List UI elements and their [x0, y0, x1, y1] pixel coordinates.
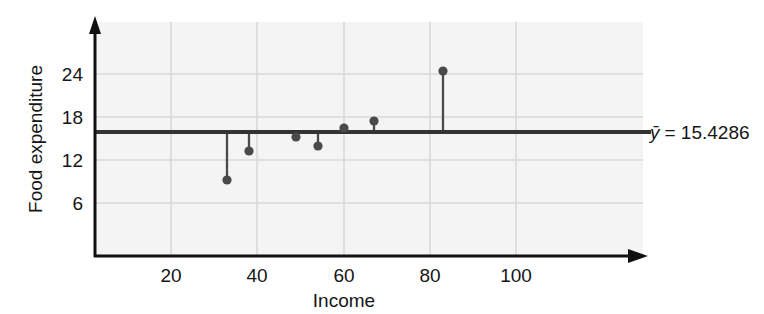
data-point-6	[369, 116, 378, 125]
data-point-5	[339, 123, 348, 132]
mean-value-text: = 15.4286	[665, 122, 750, 143]
svg-text:ȳ= 15.4286: ȳ= 15.4286	[648, 122, 750, 143]
scatter-plot-canvas: 24 18 12 6 20 40 60 80 100 Food expendit…	[0, 0, 764, 314]
y-tick-label-18: 18	[62, 107, 83, 128]
y-axis-title: Food expenditure	[25, 65, 46, 213]
x-tick-label-80: 80	[419, 265, 440, 286]
y-tick-label-6: 6	[72, 193, 83, 214]
x-tick-label-20: 20	[160, 265, 181, 286]
x-axis-title: Income	[313, 290, 375, 311]
plot-background	[95, 22, 643, 256]
x-tick-label-60: 60	[333, 265, 354, 286]
data-point-7	[438, 66, 447, 75]
data-point-1	[222, 175, 231, 184]
x-tick-label-40: 40	[246, 265, 267, 286]
data-point-4	[313, 141, 322, 150]
y-tick-label-24: 24	[62, 64, 84, 85]
mean-line-annotation: ȳ= 15.4286	[648, 122, 750, 143]
data-point-3	[291, 132, 300, 141]
y-tick-label-12: 12	[62, 150, 83, 171]
chart-figure: 24 18 12 6 20 40 60 80 100 Food expendit…	[0, 0, 764, 314]
mean-symbol-y-bar: ȳ	[648, 122, 661, 143]
x-tick-label-100: 100	[500, 265, 532, 286]
data-point-2	[244, 146, 253, 155]
